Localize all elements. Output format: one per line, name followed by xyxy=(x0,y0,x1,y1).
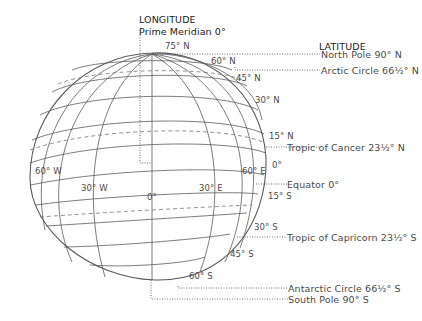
tick-60e: 60° E xyxy=(242,166,266,177)
lat-0 xyxy=(31,170,264,185)
lat-30n xyxy=(32,121,264,140)
tick-15n: 15° N xyxy=(269,131,294,142)
callout-north-pole: North Pole 90° N xyxy=(321,49,402,60)
lat-60s xyxy=(90,257,205,266)
callout-equator: Equator 0° xyxy=(287,179,339,190)
lat-30s xyxy=(46,213,247,226)
callout-tropic-cancer: Tropic of Cancer 23½° N xyxy=(287,142,405,153)
leader-arctic-circle xyxy=(235,67,320,70)
callout-tropic-capricorn: Tropic of Capricorn 23½° S xyxy=(287,232,417,243)
tick-30s: 30° S xyxy=(254,222,278,233)
meridian-60w xyxy=(59,54,152,262)
tick-30n: 30° N xyxy=(255,95,280,106)
tick-15s: 15° S xyxy=(268,191,292,202)
tropic-of-capricorn xyxy=(40,205,252,217)
leader-south-pole xyxy=(151,280,288,299)
meridian-60e xyxy=(152,54,242,262)
lat-45s xyxy=(64,234,230,247)
longitude-heading: LONGITUDE xyxy=(139,14,196,25)
callout-south-pole: South Pole 90° S xyxy=(288,294,369,305)
tick-30w: 30° W xyxy=(81,183,108,194)
meridian-30w xyxy=(93,54,152,277)
prime-meridian-label: Prime Meridian 0° xyxy=(139,26,226,37)
tick-45n: 45° N xyxy=(236,73,261,84)
tick-45s: 45° S xyxy=(230,249,254,260)
tick-30e: 30° E xyxy=(199,183,223,194)
leader-antarctic-circle xyxy=(178,286,288,288)
tick-0-longitude: 0° xyxy=(147,192,157,203)
tick-75n: 75° N xyxy=(165,41,190,52)
tick-60n: 60° N xyxy=(211,56,236,67)
callout-arctic-circle: Arctic Circle 66½° N xyxy=(321,65,419,76)
tick-60w: 60° W xyxy=(35,166,62,177)
tick-0: 0° xyxy=(272,160,282,171)
callout-antarctic-circle: Antarctic Circle 66½° S xyxy=(288,283,401,294)
tick-60s: 60° S xyxy=(189,271,213,282)
